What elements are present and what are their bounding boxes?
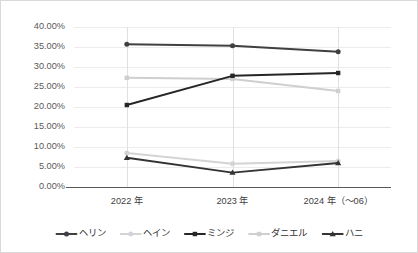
x-axis-tick-label: 2022 年: [111, 195, 143, 206]
y-axis-tick-label: 15.00%: [34, 121, 65, 131]
x-axis-tick-label: 2024 年（～06）: [304, 195, 373, 206]
data-point: [230, 74, 234, 78]
chart-canvas: 40.00%35.00%30.00%25.00%20.00%15.00%10.0…: [1, 1, 418, 253]
x-axis-tick-label: 2023 年: [217, 195, 249, 206]
legend-label: ミンジ: [207, 227, 234, 238]
legend-item-4[interactable]: ハニ: [323, 227, 363, 238]
legend-marker: [64, 232, 69, 237]
y-axis-tick-label: 20.00%: [34, 101, 65, 111]
series-1: [124, 151, 340, 167]
y-axis-tick-labels: 40.00%35.00%30.00%25.00%20.00%15.00%10.0…: [34, 21, 65, 191]
data-point: [125, 76, 129, 80]
data-point: [336, 49, 341, 54]
chart-legend: ヘリンヘインミンジダニエルハニ: [57, 227, 363, 238]
data-point: [230, 43, 235, 48]
gridline-group: [74, 28, 391, 168]
data-point: [125, 103, 129, 107]
legend-label: ヘリン: [79, 227, 106, 238]
legend-item-1[interactable]: ヘイン: [121, 227, 170, 238]
y-axis-tick-label: 35.00%: [34, 41, 65, 51]
y-axis-tick-label: 25.00%: [34, 81, 65, 91]
y-axis-tick-label: 5.00%: [39, 161, 65, 171]
legend-item-0[interactable]: ヘリン: [57, 227, 106, 238]
y-axis-tick-label: 10.00%: [34, 141, 65, 151]
legend-label: ハニ: [345, 227, 363, 238]
line-chart: 40.00%35.00%30.00%25.00%20.00%15.00%10.0…: [0, 0, 418, 253]
y-axis-tick-label: 40.00%: [34, 21, 65, 31]
series-2: [125, 71, 341, 107]
series-3: [125, 76, 341, 94]
legend-item-3[interactable]: ダニエル: [249, 227, 307, 238]
legend-item-2[interactable]: ミンジ: [185, 227, 234, 238]
data-point: [336, 71, 340, 75]
data-point: [124, 42, 129, 47]
series-group: [124, 42, 342, 175]
legend-marker: [257, 232, 261, 236]
data-point: [336, 89, 340, 93]
y-axis-tick-label: 0.00%: [39, 181, 65, 191]
data-point: [230, 161, 235, 166]
legend-marker: [193, 232, 197, 236]
y-axis-tick-label: 30.00%: [34, 61, 65, 71]
x-axis-tick-labels: 2022 年2023 年2024 年（～06）: [111, 195, 373, 206]
legend-marker: [128, 232, 133, 237]
legend-label: ダニエル: [271, 227, 307, 238]
legend-label: ヘイン: [143, 227, 170, 238]
